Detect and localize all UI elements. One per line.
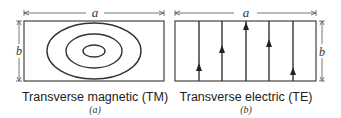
caption-te: Transverse electric (TE)	[180, 90, 313, 104]
arrow-up-icon	[243, 22, 249, 30]
field-line-inner	[83, 45, 105, 57]
arrow-up-icon	[219, 45, 225, 53]
sublabel-b: (b)	[240, 104, 252, 116]
waveguide-modes-diagram: a b Transverse magnetic (TM) (a)	[0, 0, 341, 118]
caption-tm: Transverse magnetic (TM)	[22, 90, 168, 104]
dimension-b-label: b	[319, 45, 325, 59]
arrow-up-icon	[196, 63, 202, 71]
panel-te: a b Transverse electric (TE) (b)	[175, 5, 325, 116]
field-line-middle	[66, 34, 122, 68]
panel-tm: a b Transverse magnetic (TM) (a)	[16, 5, 168, 116]
field-line-outer	[47, 23, 141, 79]
dimension-b-label: b	[16, 44, 22, 58]
sublabel-a: (a)	[89, 104, 101, 116]
waveguide-rect	[24, 21, 164, 81]
dimension-a-label: a	[92, 5, 99, 20]
dimension-a-label: a	[243, 5, 250, 20]
arrow-up-icon	[290, 67, 296, 75]
arrow-up-icon	[266, 39, 272, 47]
